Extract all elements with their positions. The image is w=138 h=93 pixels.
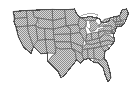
states-layer: Washington Oregon California Nevada Idah… (14, 9, 129, 82)
us-map-svg: Washington Oregon California Nevada Idah… (0, 0, 138, 93)
us-map-thumbnail: Washington Oregon California Nevada Idah… (0, 0, 138, 93)
state-minnesota: Minnesota (65, 9, 80, 26)
state-alabama: Alabama (88, 49, 95, 59)
state-kansas: Kansas (54, 34, 71, 42)
state-new-mexico: New Mexico (46, 40, 56, 54)
state-florida: Florida (94, 58, 111, 82)
lake-michigan (86, 21, 90, 30)
state-mississippi: Mississippi (82, 49, 89, 60)
